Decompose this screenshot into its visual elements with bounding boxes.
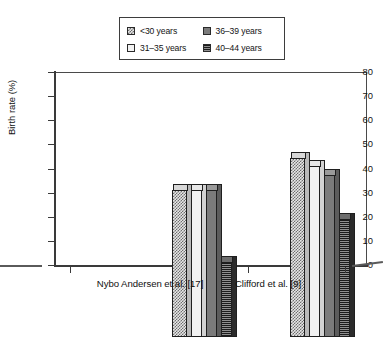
legend-entry-31-35: 31–35 years — [127, 43, 203, 53]
legend-entry-under-30: <30 years — [127, 26, 203, 36]
blank-swatch-icon — [127, 44, 135, 52]
legend-row: <30 years 36–39 years — [127, 22, 278, 39]
bar-30years — [172, 190, 187, 337]
chart-legend: <30 years 36–39 years 31–35 years 40–44 … — [119, 17, 285, 60]
legend-label: <30 years — [140, 26, 177, 36]
legend-row: 31–35 years 40–44 years — [127, 39, 278, 56]
legend-label: 36–39 years — [216, 26, 262, 36]
legend-label: 40–44 years — [216, 43, 262, 53]
x-tick-mark — [70, 267, 71, 273]
solid-gray-swatch-icon — [203, 27, 211, 35]
left-edge-mark — [0, 265, 42, 267]
legend-entry-36-39: 36–39 years — [203, 26, 279, 36]
x-group-label: Nybo Andersen et al. [17] — [97, 278, 203, 289]
crosshatch-swatch-icon — [127, 27, 135, 35]
x-tick-mark — [345, 267, 346, 273]
bar-30years — [290, 158, 305, 337]
legend-entry-40-44: 40–44 years — [203, 43, 279, 53]
x-group-label: Clifford et al. [9] — [235, 278, 301, 289]
plot-area — [55, 72, 367, 265]
legend-label: 31–35 years — [140, 43, 186, 53]
x-tick-mark — [248, 267, 249, 273]
y-axis-title: Birth rate (%) — [6, 80, 17, 135]
horizontal-lines-swatch-icon — [203, 44, 211, 52]
